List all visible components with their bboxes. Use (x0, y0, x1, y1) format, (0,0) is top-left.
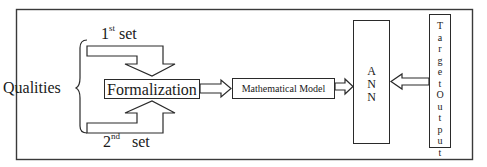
model-to-ann-arrow (335, 79, 353, 94)
second-set-word: set (132, 133, 150, 150)
ann-letter: N (354, 91, 389, 104)
target-letter: r (430, 43, 450, 55)
ann-box: A N N (353, 20, 390, 144)
second-set-label: 2nd set (103, 134, 150, 150)
target-output-label: T a r g e t O u t p u t (430, 20, 450, 158)
first-set-word: set (119, 25, 137, 42)
target-letter: t (430, 147, 450, 159)
target-letter: a (430, 32, 450, 44)
target-letter: t (430, 78, 450, 90)
formalization-box: Formalization (104, 79, 200, 99)
target-letter: u (430, 135, 450, 147)
formalization-to-model-arrow (200, 80, 231, 97)
first-set-suffix: st (109, 23, 115, 33)
target-letter: p (430, 124, 450, 136)
second-set-arrow (87, 101, 175, 133)
target-letter: O (430, 89, 450, 101)
mathematical-model-box: Mathematical Model (232, 78, 335, 99)
first-set-number: 1 (101, 25, 109, 42)
mathematical-model-label: Mathematical Model (233, 79, 334, 98)
target-letter: u (430, 101, 450, 113)
target-to-ann-arrow (391, 74, 429, 89)
qualities-label: Qualities (3, 80, 61, 96)
target-letter: g (430, 55, 450, 67)
first-set-label: 1st set (101, 26, 137, 42)
second-set-suffix: nd (111, 131, 120, 141)
target-letter: t (430, 112, 450, 124)
first-set-arrow (87, 46, 175, 76)
formalization-label: Formalization (105, 80, 199, 100)
curly-brace (76, 40, 87, 133)
ann-label: A N N (354, 65, 389, 104)
target-letter: T (430, 20, 450, 32)
diagram-canvas: Qualities 1st set 2nd set Formalization … (0, 0, 487, 167)
target-output-box: T a r g e t O u t p u t (429, 14, 451, 148)
target-letter: e (430, 66, 450, 78)
second-set-number: 2 (103, 133, 111, 150)
